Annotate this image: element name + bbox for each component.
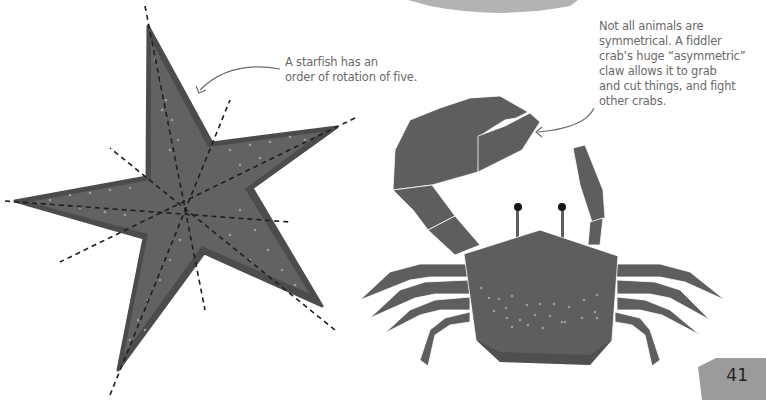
- caption-line: A starfish has an: [285, 55, 460, 70]
- crab-pointer-arrow: [536, 108, 594, 137]
- caption-line: crab’s huge “asymmetric”: [599, 49, 749, 64]
- caption-line: Not all animals are: [599, 19, 749, 34]
- starfish-caption: A starfish has an order of rotation of f…: [285, 55, 460, 85]
- caption-line: order of rotation of five.: [285, 70, 460, 85]
- top-banner-shape: [408, 0, 578, 13]
- caption-line: other crabs.: [599, 94, 749, 109]
- crab-illustration: [360, 96, 725, 366]
- caption-line: and cut things, and fight: [599, 79, 749, 94]
- page-number: 41: [726, 365, 748, 385]
- caption-line: symmetrical. A fiddler: [599, 34, 749, 49]
- caption-line: claw allows it to grab: [599, 64, 749, 79]
- crab-caption: Not all animals are symmetrical. A fiddl…: [599, 19, 749, 109]
